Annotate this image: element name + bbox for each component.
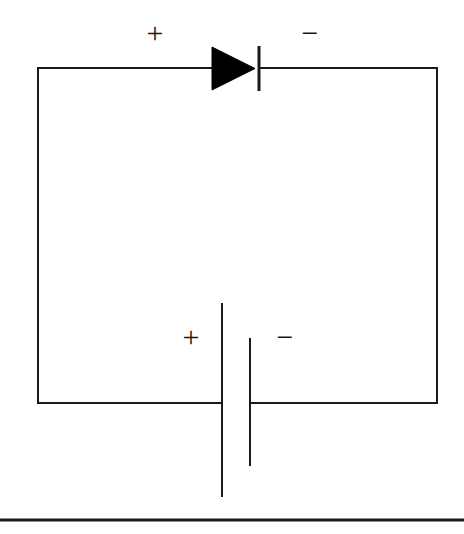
battery-positive-polarity-label: +	[171, 322, 211, 352]
diode-cathode-polarity-label: −	[290, 18, 330, 48]
circuit-schematic	[0, 0, 464, 534]
circuit-diagram-page: + − + −	[0, 0, 464, 534]
battery-negative-polarity-label: −	[265, 322, 305, 352]
diode-anode-polarity-label: +	[135, 18, 175, 48]
diode-triangle-icon	[212, 47, 255, 90]
